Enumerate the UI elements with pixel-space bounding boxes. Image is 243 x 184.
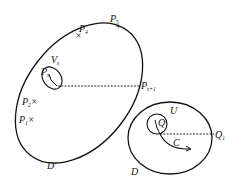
label-ps: Ps [40, 66, 49, 78]
label-p1: P1× [18, 114, 35, 126]
label-curve-c: C [173, 137, 180, 148]
label-q1: Q1 [215, 129, 225, 141]
label-region-d-prime: D' [46, 160, 57, 171]
label-p5: P5 [109, 13, 119, 25]
label-region-d: D [130, 166, 139, 177]
label-u: U [170, 105, 178, 116]
path-segment-vs [49, 74, 57, 86]
label-vs: Vs [51, 54, 59, 66]
label-q: Q [158, 117, 166, 128]
label-p4: P4 [78, 23, 88, 35]
label-p2: P2× [21, 96, 38, 108]
diagram-canvas: × + P4 P5 Vs Ps Ps+1 P2× P1× D' Q U Q1 C… [0, 0, 243, 184]
label-ps1: Ps+1 [140, 80, 156, 92]
